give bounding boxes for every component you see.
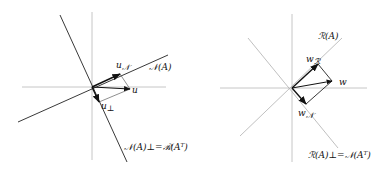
label-null-space: 𝒩(A) xyxy=(149,62,172,72)
right-panel: ℛ(A) wℛ w w𝒩 ℛ(A)⊥=𝒩(Aᵀ) xyxy=(220,14,371,162)
vector-u-perp xyxy=(92,87,99,102)
label-range-complement: ℛ(A)⊥=𝒩(Aᵀ) xyxy=(308,150,371,160)
vector-w-N xyxy=(292,88,306,104)
label-u-N: u𝒩 xyxy=(116,60,132,72)
label-u-perp: u⊥ xyxy=(101,101,114,113)
diagram-canvas: u𝒩 𝒩(A) u u⊥ 𝒩(A)⊥=ℛ(Aᵀ) ℛ(A) wℛ w w𝒩 ℛ(… xyxy=(0,0,382,172)
left-panel: u𝒩 𝒩(A) u u⊥ 𝒩(A)⊥=ℛ(Aᵀ) xyxy=(18,12,188,162)
label-range: ℛ(A) xyxy=(318,31,339,41)
label-w: w xyxy=(339,77,347,87)
projection-edge-1 xyxy=(318,64,332,81)
label-w-R: wℛ xyxy=(306,54,321,66)
label-null-complement: 𝒩(A)⊥=ℛ(Aᵀ) xyxy=(124,142,188,152)
label-u: u xyxy=(132,85,138,95)
vector-u-N xyxy=(92,74,120,87)
range-line xyxy=(240,38,342,136)
